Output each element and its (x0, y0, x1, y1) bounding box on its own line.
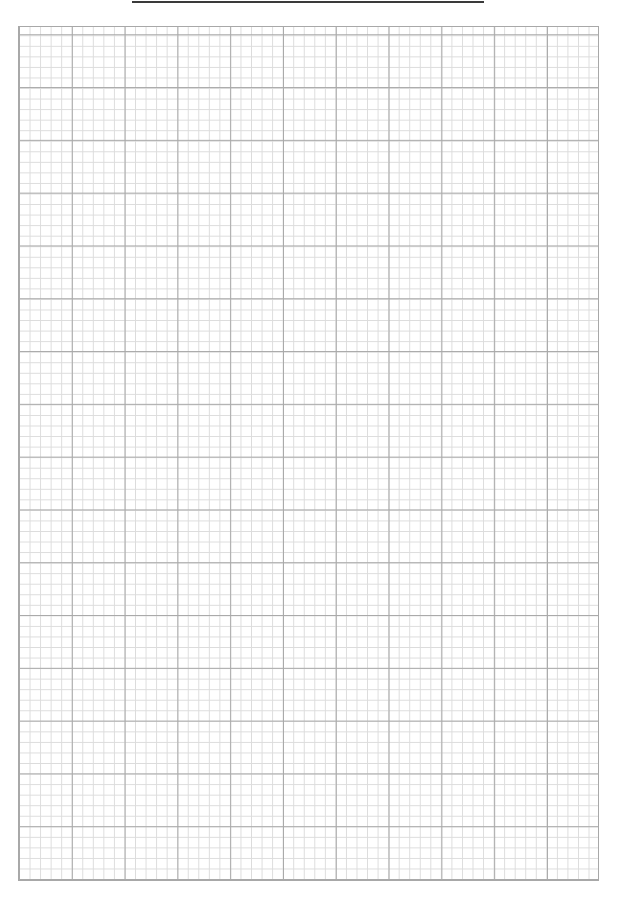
graph-paper-grid (18, 26, 599, 881)
title-underline (132, 1, 484, 3)
